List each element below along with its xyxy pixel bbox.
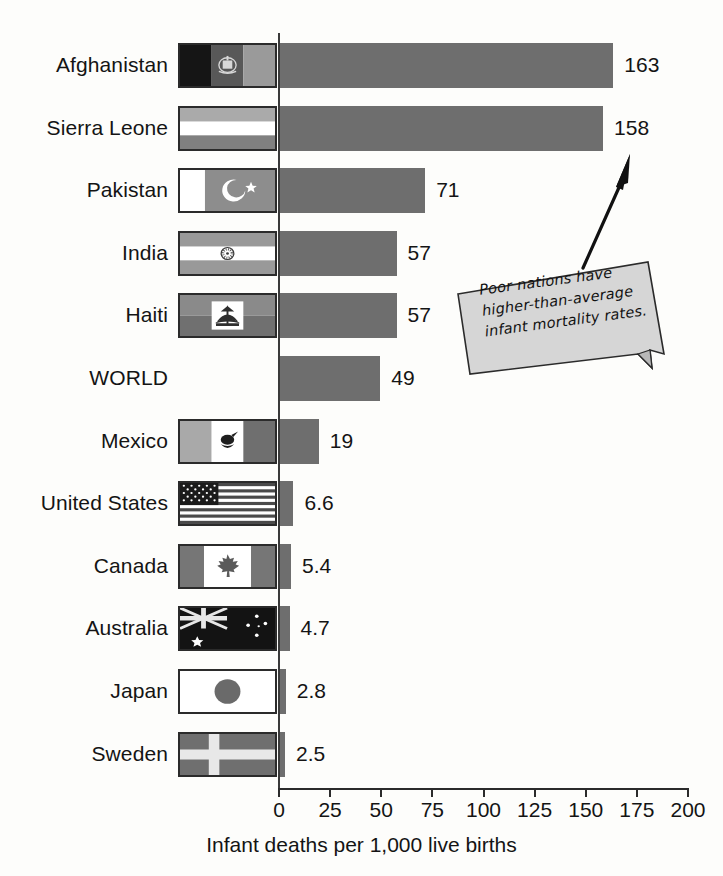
bar-value-label: 6.6 — [304, 475, 333, 531]
country-label: Sierra Leone — [0, 100, 168, 156]
country-label: Australia — [0, 600, 168, 656]
x-axis-tick-label: 200 — [670, 798, 705, 822]
india-flag — [178, 231, 277, 276]
country-label: Pakistan — [0, 162, 168, 218]
callout-note: Poor nations have higher-than-average in… — [452, 258, 682, 378]
bar — [280, 106, 603, 151]
country-label: Haiti — [0, 287, 168, 343]
bar-value-label: 57 — [408, 225, 431, 281]
x-axis-tick-label: 100 — [466, 798, 501, 822]
country-label: Sweden — [0, 726, 168, 782]
mexico-flag — [178, 419, 277, 464]
bar-value-label: 2.5 — [296, 726, 325, 782]
chart-row: Sweden 2.5 — [0, 726, 723, 782]
x-axis-tick — [329, 788, 331, 797]
x-axis-tick — [636, 788, 638, 797]
x-axis-tick-label: 125 — [517, 798, 552, 822]
x-axis-tick — [585, 788, 587, 797]
x-axis-tick — [687, 788, 689, 797]
x-axis-tick-label: 25 — [318, 798, 341, 822]
x-axis-tick — [483, 788, 485, 797]
bar — [280, 419, 319, 464]
x-axis-title: Infant deaths per 1,000 live births — [0, 833, 723, 857]
x-axis-tick — [534, 788, 536, 797]
bar — [280, 669, 286, 714]
country-label: Afghanistan — [0, 37, 168, 93]
x-axis-tick-label: 75 — [421, 798, 444, 822]
united-states-flag — [178, 481, 277, 526]
chart-row: Mexico 19 — [0, 413, 723, 469]
bar — [280, 43, 613, 88]
x-axis-tick-label: 50 — [370, 798, 393, 822]
australia-flag — [178, 606, 277, 651]
bar-value-label: 5.4 — [302, 538, 331, 594]
bar-value-label: 19 — [330, 413, 353, 469]
country-label: Canada — [0, 538, 168, 594]
country-label: Japan — [0, 663, 168, 719]
bar — [280, 231, 397, 276]
chart-row: Japan 2.8 — [0, 663, 723, 719]
infant-mortality-bar-chart: Afghanistan 163Sierra Leone 158Pakistan — [0, 0, 723, 876]
chart-row: United States — [0, 475, 723, 531]
haiti-flag — [178, 293, 277, 338]
bar-value-label: 4.7 — [301, 600, 330, 656]
x-axis-tick — [278, 788, 280, 797]
bar-value-label: 57 — [408, 287, 431, 343]
x-axis-tick-label: 150 — [568, 798, 603, 822]
x-axis-tick — [380, 788, 382, 797]
bar-value-label: 49 — [391, 350, 414, 406]
bar — [280, 606, 290, 651]
country-label: WORLD — [0, 350, 168, 406]
chart-row: Australia 4.7 — [0, 600, 723, 656]
afghanistan-flag — [178, 43, 277, 88]
y-axis-line — [278, 33, 280, 788]
country-label: Mexico — [0, 413, 168, 469]
bar — [280, 481, 293, 526]
sweden-flag — [178, 732, 277, 777]
bar — [280, 293, 397, 338]
x-axis-tick-label: 175 — [619, 798, 654, 822]
callout-arrow-icon — [575, 146, 645, 271]
bar-value-label: 71 — [436, 162, 459, 218]
japan-flag — [178, 669, 277, 714]
x-axis-tick-label: 0 — [273, 798, 285, 822]
bar — [280, 732, 285, 777]
bar — [280, 168, 425, 213]
chart-row: Afghanistan 163 — [0, 37, 723, 93]
country-label: India — [0, 225, 168, 281]
country-label: United States — [0, 475, 168, 531]
bar — [280, 356, 380, 401]
pakistan-flag — [178, 168, 277, 213]
canada-flag — [178, 544, 277, 589]
chart-row: Canada 5.4 — [0, 538, 723, 594]
bar-value-label: 2.8 — [297, 663, 326, 719]
x-axis-tick — [431, 788, 433, 797]
bar — [280, 544, 291, 589]
sierra-leone-flag — [178, 106, 277, 151]
bar-value-label: 163 — [624, 37, 659, 93]
